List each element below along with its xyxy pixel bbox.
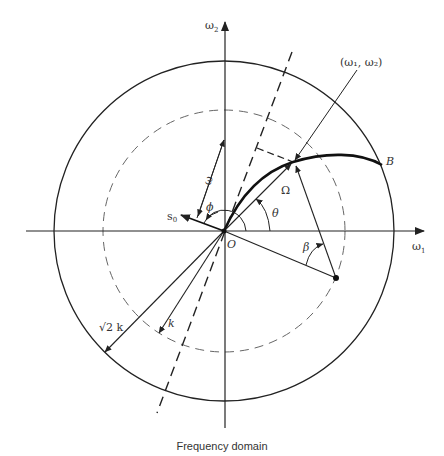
trajectory-curve <box>224 155 382 231</box>
origin-point <box>222 229 227 234</box>
perpendicular-dashed-segment <box>257 148 293 162</box>
k-label: k <box>168 317 175 330</box>
beta-point <box>333 275 339 281</box>
theta-label: θ <box>272 207 279 220</box>
omega-label: ω <box>201 174 216 187</box>
sqrt2k-label: √2 k <box>99 321 124 334</box>
s0-label: s0 <box>167 210 177 224</box>
beta-vector <box>296 166 336 278</box>
phi-label: ϕ <box>206 201 214 214</box>
omega-point-label: (ω₁, ω₂) <box>340 56 382 69</box>
omega1-axis-label: ω1 <box>412 240 425 255</box>
theta-angle-arc <box>256 199 270 231</box>
s0-vector <box>181 215 224 231</box>
frequency-domain-diagram: ω2 ω1 O (ω₁, ω₂) B Ω θ β ϕ ω s0 √2 k k F… <box>0 0 444 456</box>
capital-omega-vector <box>224 164 291 231</box>
capital-omega-label: Ω <box>281 184 290 197</box>
figure-caption: Frequency domain <box>176 440 267 452</box>
origin-label: O <box>227 238 236 251</box>
beta-base-line <box>224 231 336 278</box>
beta-label: β <box>302 241 309 254</box>
b-label: B <box>385 155 394 168</box>
omega2-axis-label: ω2 <box>205 19 218 34</box>
